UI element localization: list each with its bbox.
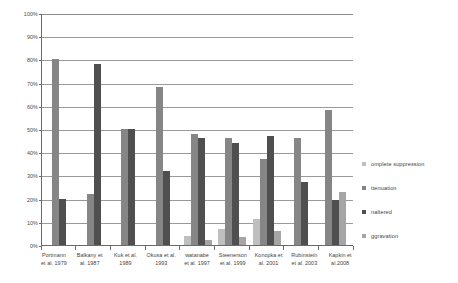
bar-group <box>111 14 146 245</box>
chart-legend: omplete suppressionttenuationnalteredggr… <box>362 152 458 248</box>
y-axis-tick-label: 30% <box>27 173 38 179</box>
x-axis-label: Balkany etal. 1987 <box>72 252 108 267</box>
x-axis-label: watanabeet al. 1997 <box>179 252 215 267</box>
legend-item[interactable]: omplete suppression <box>362 152 458 176</box>
bar <box>184 236 191 245</box>
bar <box>128 129 135 245</box>
bar <box>239 237 246 245</box>
bar-group <box>284 14 319 245</box>
bar <box>253 219 260 245</box>
x-axis-label: Rubinsteinet al. 2003 <box>286 252 322 267</box>
x-axis-tick <box>76 246 111 250</box>
plot-area: 100%90%80%70%60%50%40%30%20%10%0% <box>41 14 353 246</box>
legend-item[interactable]: ttenuation <box>362 176 458 200</box>
x-axis-tick <box>180 246 215 250</box>
x-axis-tick <box>110 246 145 250</box>
x-axis-label: Konopka etal. 2001 <box>251 252 287 267</box>
legend-item[interactable]: ggravation <box>362 224 458 248</box>
legend-item-label: omplete suppression <box>371 161 425 167</box>
bar <box>156 87 163 245</box>
bar <box>339 192 346 245</box>
x-axis-ticks <box>41 246 353 250</box>
bar-group <box>77 14 112 245</box>
bar-group <box>146 14 181 245</box>
y-axis-tick-label: 80% <box>27 57 38 63</box>
bar <box>191 134 198 245</box>
x-axis-label: Steenersonet al. 1999 <box>215 252 251 267</box>
bar-groups <box>42 14 353 245</box>
bar-group <box>180 14 215 245</box>
bar <box>198 138 205 245</box>
x-axis-tick <box>145 246 180 250</box>
legend-swatch-icon <box>362 234 366 238</box>
x-axis-tick <box>214 246 249 250</box>
bar <box>225 138 232 245</box>
bar <box>301 182 308 245</box>
bar <box>325 110 332 245</box>
bar <box>232 143 239 245</box>
legend-swatch-icon <box>362 186 366 190</box>
legend-item[interactable]: naltered <box>362 200 458 224</box>
bar-group <box>42 14 77 245</box>
x-axis-tick <box>249 246 284 250</box>
x-axis-tick <box>284 246 319 250</box>
legend-swatch-icon <box>362 162 366 166</box>
bar-chart: 100%90%80%70%60%50%40%30%20%10%0% Portma… <box>0 0 458 283</box>
bar <box>332 200 339 245</box>
bar <box>87 194 94 245</box>
bar <box>294 138 301 245</box>
x-axis-labels: Portmannet al. 1979Balkany etal. 1987Kuk… <box>36 252 358 267</box>
bar-group <box>249 14 284 245</box>
x-axis-label: Kuk et al.1989 <box>108 252 144 267</box>
legend-item-label: ggravation <box>371 233 398 239</box>
bar <box>205 240 212 245</box>
bar-group <box>319 14 354 245</box>
bar <box>267 136 274 245</box>
bar <box>52 59 59 245</box>
bar <box>163 171 170 245</box>
x-axis-label: Okusa et al.1993 <box>143 252 179 267</box>
bar <box>94 64 101 245</box>
y-axis-tick-label: 40% <box>27 150 38 156</box>
y-axis-tick-label: 90% <box>27 34 38 40</box>
y-axis-tick-label: 20% <box>27 197 38 203</box>
bar <box>121 129 128 245</box>
bar-group <box>215 14 250 245</box>
y-axis-tick-label: 10% <box>27 220 38 226</box>
y-axis-tick-label: 60% <box>27 104 38 110</box>
y-axis-tick-label: 50% <box>27 127 38 133</box>
legend-item-label: ttenuation <box>371 185 397 191</box>
legend-swatch-icon <box>362 210 366 214</box>
bar <box>218 229 225 245</box>
legend-item-label: naltered <box>371 209 392 215</box>
bar <box>274 231 281 245</box>
x-axis-tick <box>318 246 353 250</box>
y-axis-tick-label: 0% <box>30 243 38 249</box>
bar <box>59 199 66 245</box>
bar <box>260 159 267 245</box>
x-axis-tick <box>41 246 76 250</box>
x-axis-label: Portmannet al. 1979 <box>36 252 72 267</box>
y-axis-tick-label: 100% <box>24 11 38 17</box>
x-axis-label: Kapkin etal.2008 <box>322 252 358 267</box>
y-axis-tick-label: 70% <box>27 81 38 87</box>
